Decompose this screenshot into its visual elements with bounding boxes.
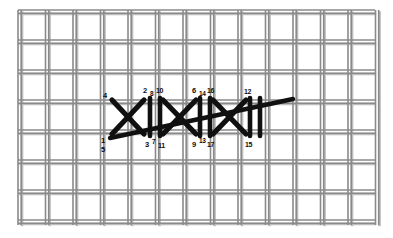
stitch-number-8: 8 — [150, 91, 153, 98]
stitch-number-9: 9 — [192, 141, 196, 149]
stitch-number-14: 14 — [199, 91, 206, 98]
stitch-number-4: 4 — [103, 92, 107, 100]
stitch-number-1: 1 — [101, 137, 105, 145]
stitch-number-10: 10 — [156, 87, 163, 94]
stitch-number-6: 6 — [192, 87, 196, 95]
stitch-number-15: 15 — [245, 141, 252, 148]
stitch-number-2: 2 — [143, 87, 147, 95]
stitch-number-17: 17 — [207, 141, 214, 148]
stitch-number-7: 7 — [152, 139, 155, 146]
stitch-number-11: 11 — [158, 142, 165, 149]
stitch-diagram-figure: 4281061416121537119131715 — [0, 0, 393, 238]
stitch-number-16: 16 — [207, 87, 214, 94]
stitch-number-3: 3 — [145, 141, 149, 149]
stitch-number-5: 5 — [101, 146, 105, 154]
stitch-number-12: 12 — [244, 88, 251, 95]
canvas-mesh-illustration — [0, 0, 393, 238]
stitch-number-13: 13 — [199, 138, 206, 145]
